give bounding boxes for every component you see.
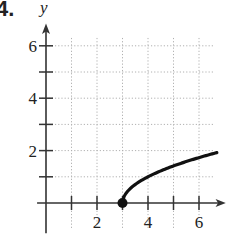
function-graph: 246246: [0, 0, 229, 251]
svg-text:6: 6: [195, 213, 204, 232]
svg-text:2: 2: [93, 213, 102, 232]
axes: [37, 24, 226, 234]
svg-text:6: 6: [29, 37, 38, 56]
tick-marks: [39, 46, 199, 210]
svg-text:2: 2: [29, 142, 38, 161]
endpoint-dot: [118, 198, 128, 208]
curve-sqrt: [123, 153, 217, 203]
svg-text:4: 4: [29, 89, 38, 108]
grid: [42, 38, 213, 229]
svg-text:4: 4: [144, 213, 153, 232]
